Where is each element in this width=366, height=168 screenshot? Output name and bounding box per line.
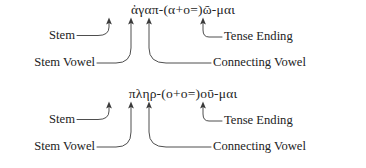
morphology-figure: ἀγαπ-(α+ο=)ῶ-μαι Stem Stem Vowel Tense: [0, 0, 366, 168]
label-tense-ending-1: Tense Ending: [224, 29, 293, 44]
label-connecting-vowel-2: Connecting Vowel: [213, 139, 306, 154]
label-stem-vowel-2: Stem Vowel: [0, 139, 95, 154]
greek-word-line-2: πληρ-(ο+ο=)οῦ-μαι: [0, 86, 366, 102]
label-connecting-vowel-1: Connecting Vowel: [213, 55, 306, 70]
diagram-block-2: πληρ-(ο+ο=)οῦ-μαι Stem Stem Vowel Tense …: [0, 84, 366, 168]
label-stem-1: Stem: [0, 28, 75, 43]
label-tense-ending-2: Tense Ending: [224, 113, 293, 128]
diagram-block-1: ἀγαπ-(α+ο=)ῶ-μαι Stem Stem Vowel Tense: [0, 0, 366, 84]
label-stem-vowel-1: Stem Vowel: [0, 55, 95, 70]
label-stem-2: Stem: [0, 112, 75, 127]
greek-word-line-1: ἀγαπ-(α+ο=)ῶ-μαι: [0, 2, 366, 18]
